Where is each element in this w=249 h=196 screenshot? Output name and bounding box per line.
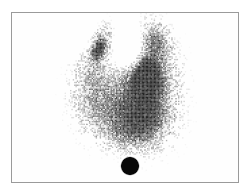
scan-image-frame <box>11 12 239 183</box>
scan-kind-label: thyroid-scintigram <box>0 0 1 1</box>
scintigram-viewer: thyroid-scintigram <box>0 0 249 196</box>
scintigram-count-map <box>12 13 238 182</box>
